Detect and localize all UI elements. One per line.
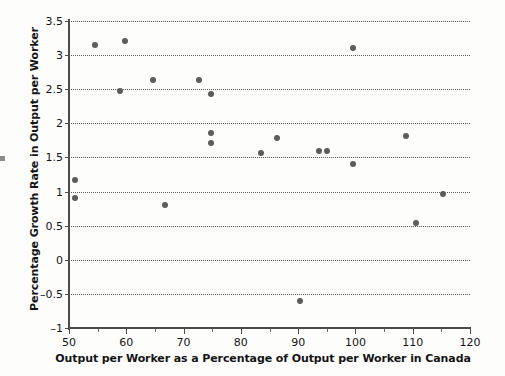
x-tick-label: 60 <box>106 336 146 349</box>
x-tick-minor-mark <box>270 329 271 332</box>
x-tick-minor-mark <box>155 329 156 332</box>
y-tick-mark <box>65 260 69 261</box>
data-point <box>440 191 446 197</box>
data-point <box>316 148 322 154</box>
data-point <box>208 140 214 146</box>
x-tick-label: 70 <box>164 336 204 349</box>
data-point <box>150 77 156 83</box>
gridline-y <box>69 21 470 22</box>
gridline-y <box>69 192 470 193</box>
gridline-y <box>69 294 470 295</box>
x-tick-mark <box>241 329 242 334</box>
data-point <box>403 133 409 139</box>
x-tick-mark <box>298 329 299 334</box>
y-tick-mark <box>65 55 69 56</box>
y-tick-label: 1.5 <box>21 151 63 164</box>
gridline-y <box>69 55 470 56</box>
x-tick-mark <box>413 329 414 334</box>
y-tick-label: –0.5 <box>21 287 63 300</box>
x-tick-label: 80 <box>221 336 261 349</box>
data-point <box>324 148 330 154</box>
data-point <box>258 150 264 156</box>
gridline-y <box>69 260 470 261</box>
gridline-y <box>69 89 470 90</box>
x-tick-label: 120 <box>450 336 490 349</box>
scatter-plot-figure: Percentage Growth Rate in Output per Wor… <box>0 0 505 376</box>
data-point <box>297 298 303 304</box>
data-point <box>72 195 78 201</box>
y-tick-label: 1 <box>21 185 63 198</box>
x-tick-mark <box>470 329 471 334</box>
data-point <box>162 202 168 208</box>
y-tick-label: –1 <box>21 322 63 335</box>
data-point <box>208 91 214 97</box>
x-tick-label: 90 <box>278 336 318 349</box>
x-tick-minor-mark <box>327 329 328 332</box>
plot-area <box>69 21 470 328</box>
gridline-y <box>69 226 470 227</box>
data-point <box>122 38 128 44</box>
x-tick-mark <box>184 329 185 334</box>
x-tick-label: 110 <box>393 336 433 349</box>
data-point <box>274 135 280 141</box>
y-tick-label: 2 <box>21 117 63 130</box>
y-tick-mark <box>65 192 69 193</box>
y-tick-mark <box>65 123 69 124</box>
y-tick-label: 3.5 <box>21 15 63 28</box>
data-point <box>117 88 123 94</box>
data-point <box>92 42 98 48</box>
y-tick-mark <box>65 89 69 90</box>
y-tick-mark <box>65 294 69 295</box>
x-tick-minor-mark <box>98 329 99 332</box>
gridline-y <box>69 123 470 124</box>
x-tick-mark <box>126 329 127 334</box>
x-tick-minor-mark <box>384 329 385 332</box>
data-point <box>208 130 214 136</box>
x-tick-minor-mark <box>441 329 442 332</box>
x-tick-label: 50 <box>49 336 89 349</box>
y-tick-mark <box>65 21 69 22</box>
data-point <box>72 177 78 183</box>
x-tick-mark <box>355 329 356 334</box>
x-tick-mark <box>69 329 70 334</box>
data-point <box>350 161 356 167</box>
x-axis-title: Output per Worker as a Percentage of Out… <box>38 352 488 365</box>
page-edge-mark <box>0 156 5 161</box>
y-tick-label: 0 <box>21 253 63 266</box>
data-point <box>196 77 202 83</box>
x-tick-label: 100 <box>335 336 375 349</box>
data-point <box>350 45 356 51</box>
y-tick-mark <box>65 157 69 158</box>
y-tick-label: 3 <box>21 49 63 62</box>
y-tick-label: 0.5 <box>21 219 63 232</box>
x-tick-minor-mark <box>212 329 213 332</box>
y-tick-mark <box>65 226 69 227</box>
gridline-y <box>69 157 470 158</box>
y-tick-label: 2.5 <box>21 83 63 96</box>
